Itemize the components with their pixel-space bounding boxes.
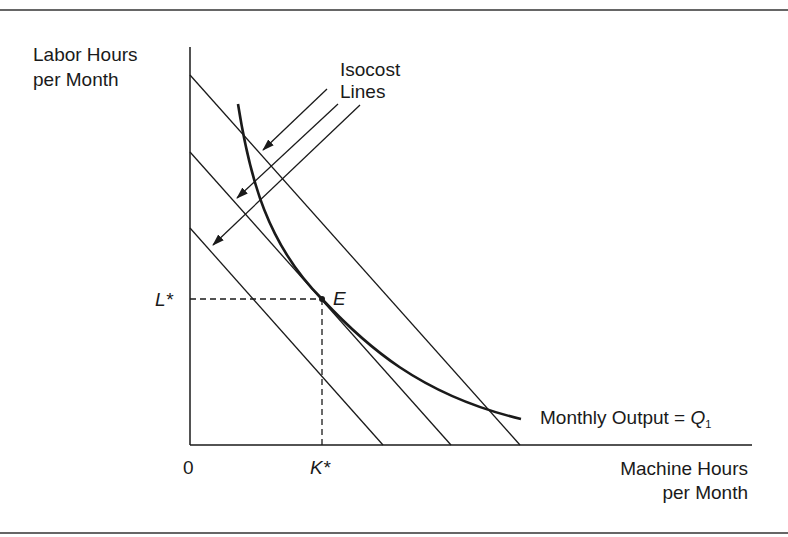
isocost-label-line-2: Lines	[340, 81, 385, 102]
equilibrium-point	[319, 296, 325, 302]
x-axis-label-line-1: Machine Hours	[620, 458, 748, 479]
isocost-label-line-1: Isocost	[340, 59, 401, 80]
origin-label: 0	[183, 457, 194, 478]
isoquant-subscript: 1	[705, 418, 711, 430]
isoquant-curve	[238, 104, 521, 419]
isocost-arrow-1	[263, 89, 327, 150]
isoquant-label-text: Monthly Output =	[540, 407, 691, 428]
y-axis-label-line-2: per Month	[33, 69, 119, 90]
isoquant-label: Monthly Output = Q1	[540, 407, 711, 430]
isocost-line-high	[190, 75, 520, 445]
equilibrium-label: E	[333, 288, 346, 309]
isocost-isoquant-diagram: Labor Hours per Month Isocost Lines L* E…	[0, 0, 788, 537]
isoquant-symbol: Q	[691, 407, 706, 428]
l-star-label: L*	[155, 289, 174, 310]
y-axis-label-line-1: Labor Hours	[33, 44, 138, 65]
x-axis-label-line-2: per Month	[662, 482, 748, 503]
k-star-label: K*	[310, 457, 331, 478]
